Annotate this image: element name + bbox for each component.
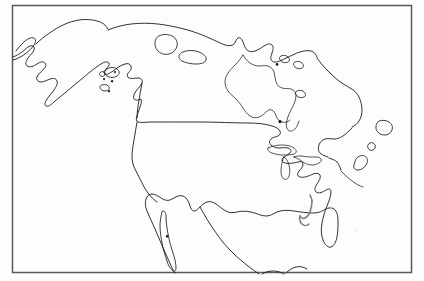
pacific-speck-1 [111,80,113,82]
scan-speck-hudson-west [276,63,279,66]
pacific-speck-2 [108,90,110,92]
pacific-speck-3 [103,78,105,80]
map-svg [0,0,424,281]
scan-speck-vancouver [114,71,116,73]
map-page: Blank outline map of North America North… [0,0,424,281]
outline-map-figure [0,0,424,281]
baja-speck [166,235,169,238]
paper-background [0,0,424,281]
scan-speck-great-lakes [278,120,281,123]
